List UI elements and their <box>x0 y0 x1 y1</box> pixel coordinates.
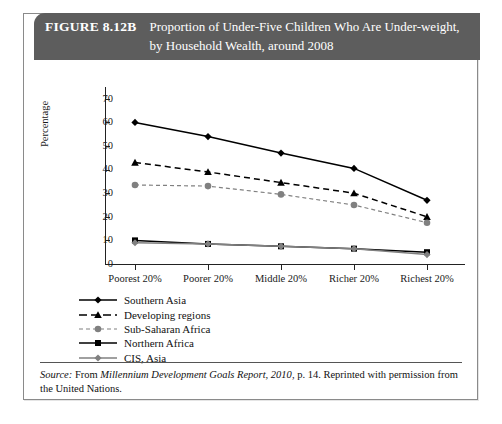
data-point-marker <box>350 189 358 196</box>
plot-series-svg <box>57 87 465 279</box>
legend-symbol <box>77 308 121 322</box>
figure-frame: FIGURE 8.12B Proportion of Under-Five Ch… <box>23 13 478 400</box>
data-point-marker <box>95 340 101 346</box>
data-point-marker <box>205 183 212 190</box>
data-point-marker <box>94 297 101 304</box>
source-note: Source: From Millennium Development Goal… <box>40 362 462 395</box>
chart-legend: Southern AsiaDeveloping regionsSub-Sahar… <box>77 293 337 365</box>
y-axis-title: Percentage <box>39 101 50 147</box>
data-point-marker <box>131 119 138 126</box>
data-point-marker <box>278 191 285 198</box>
legend-symbol <box>77 293 121 307</box>
figure-caption: Proportion of Under-Five Children Who Ar… <box>150 18 470 55</box>
series-line <box>135 122 427 200</box>
data-point-marker <box>350 165 357 172</box>
series-line <box>135 185 427 223</box>
source-publication-title: Millennium Development Goals Report, 201… <box>100 369 292 380</box>
plot-region: Percentage 010203040506070 Poorest 20%Po… <box>57 87 465 279</box>
legend-symbol <box>77 336 121 350</box>
legend-label: Developing regions <box>124 309 210 321</box>
legend-label: Sub-Saharan Africa <box>124 323 210 335</box>
source-label: Source: <box>40 369 72 380</box>
legend-item[interactable]: Southern Asia <box>77 293 337 307</box>
data-point-marker <box>204 133 211 140</box>
legend-item[interactable]: Sub-Saharan Africa <box>77 322 337 336</box>
data-point-marker <box>132 182 139 189</box>
source-text-before: From <box>72 369 100 380</box>
figure-number: FIGURE 8.12B <box>45 18 137 37</box>
legend-symbol <box>77 322 121 336</box>
chart-series <box>131 159 431 220</box>
legend-item[interactable]: Developing regions <box>77 307 337 321</box>
legend-label: Southern Asia <box>124 294 186 306</box>
data-point-marker <box>424 219 431 226</box>
data-point-marker <box>94 354 101 361</box>
series-line <box>135 163 427 217</box>
data-point-marker <box>351 202 358 209</box>
data-point-marker <box>95 326 102 333</box>
data-point-marker <box>423 197 430 204</box>
legend-label: Northern Africa <box>124 337 194 349</box>
data-point-marker <box>277 149 284 156</box>
figure-header: FIGURE 8.12B Proportion of Under-Five Ch… <box>34 13 480 60</box>
legend-item[interactable]: Northern Africa <box>77 336 337 350</box>
chart-area: Percentage 010203040506070 Poorest 20%Po… <box>24 61 477 356</box>
